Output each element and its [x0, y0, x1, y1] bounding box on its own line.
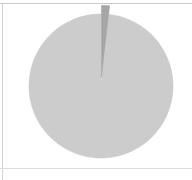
- pie-slice-majority[interactable]: [29, 14, 173, 158]
- chart-screenshot: Pie chart with one dominant light gray s…: [0, 0, 192, 180]
- pie-chart-plot-area: Pie chart with one dominant light gray s…: [0, 0, 192, 180]
- pie-chart-svg: Pie chart with one dominant light gray s…: [0, 0, 192, 180]
